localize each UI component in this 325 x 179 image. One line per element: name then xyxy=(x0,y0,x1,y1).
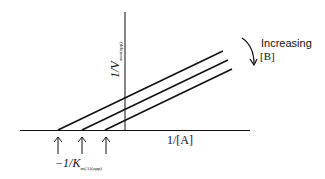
intercept-arrow-icon xyxy=(54,137,110,154)
y-axis-label: 1/Vmax(app) xyxy=(108,42,123,78)
y-axis-label-sub: max(app) xyxy=(118,42,123,61)
y-axis-label-main: 1/V xyxy=(108,61,122,78)
intercept-label-sub: m(A)(app) xyxy=(80,166,101,171)
line-2 xyxy=(82,60,228,130)
intercept-label-main: −1/K xyxy=(55,156,80,170)
annotation-label: Increasing xyxy=(261,37,312,49)
plot-canvas xyxy=(0,0,325,179)
line-3 xyxy=(105,69,232,130)
x-axis-label: 1/[A] xyxy=(167,133,193,148)
intercept-label: −1/Km(A)(app) xyxy=(55,156,102,171)
annotation-label-b: [B] xyxy=(260,50,275,62)
line-1 xyxy=(58,51,223,130)
curved-arrow-icon xyxy=(242,38,257,65)
